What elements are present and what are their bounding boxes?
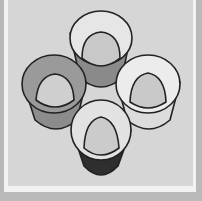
cup-bottom (71, 100, 131, 175)
cups-illustration (0, 0, 202, 201)
